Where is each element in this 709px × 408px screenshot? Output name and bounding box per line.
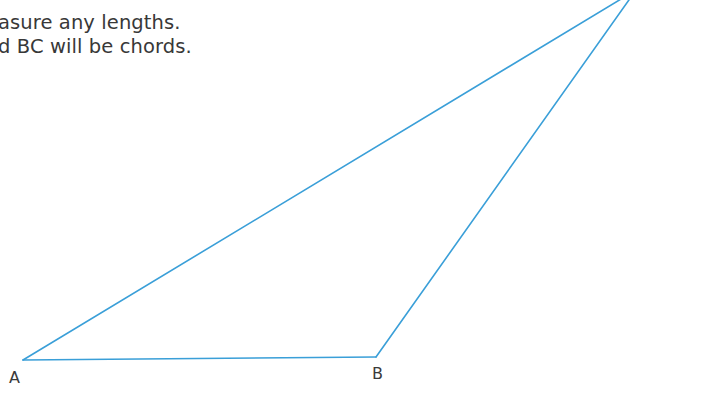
vertex-label-a: A (9, 370, 20, 386)
triangle-diagram (0, 0, 709, 408)
vertex-label-b: B (372, 366, 383, 382)
segment-bc (376, 0, 636, 357)
segment-ca (23, 0, 636, 360)
segment-ab (23, 357, 376, 360)
